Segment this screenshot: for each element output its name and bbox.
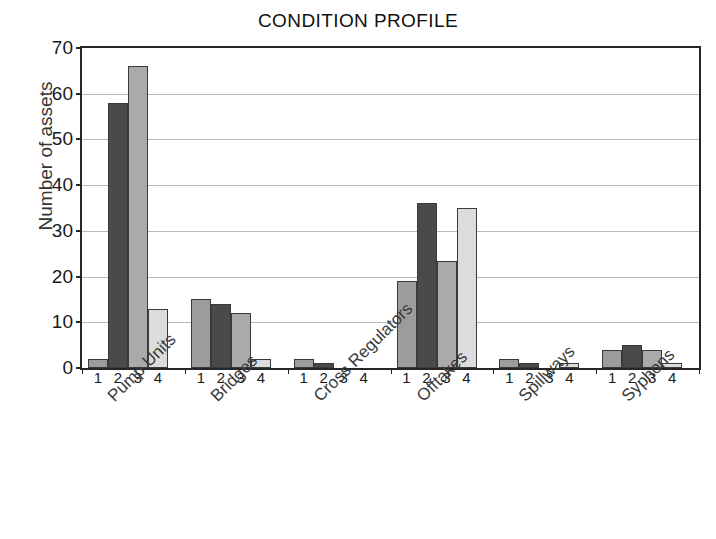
condition-profile-chart: CONDITION PROFILE Number of assets 01020…: [0, 0, 716, 539]
x-group-tick: [288, 368, 289, 374]
x-tick-label: 1: [94, 369, 102, 386]
y-axis-title: Number of assets: [35, 26, 57, 286]
y-tick-label: 10: [52, 311, 73, 333]
y-tick-label: 30: [52, 220, 73, 242]
x-group-tick: [185, 368, 186, 374]
x-tick-label: 4: [257, 369, 265, 386]
y-tick-label: 50: [52, 128, 73, 150]
x-group-tick: [493, 368, 494, 374]
x-tick-label: 1: [608, 369, 616, 386]
x-tick-label: 1: [402, 369, 410, 386]
y-tick-label: 70: [52, 37, 73, 59]
y-tick-label: 60: [52, 83, 73, 105]
x-group-tick: [699, 368, 700, 374]
x-tick-label: 1: [505, 369, 513, 386]
x-tick-label: 4: [668, 369, 676, 386]
y-tick-label: 0: [62, 357, 73, 379]
x-tick-label: 4: [154, 369, 162, 386]
x-tick-label: 4: [359, 369, 367, 386]
y-tick-label: 20: [52, 266, 73, 288]
x-tick-label: 1: [299, 369, 307, 386]
x-tick-label: 4: [565, 369, 573, 386]
chart-title: CONDITION PROFILE: [0, 10, 716, 32]
x-group-tick: [391, 368, 392, 374]
x-tick-label: 4: [462, 369, 470, 386]
x-group-tick: [82, 368, 83, 374]
y-tick-label: 40: [52, 174, 73, 196]
x-tick-label: 1: [197, 369, 205, 386]
x-group-tick: [596, 368, 597, 374]
